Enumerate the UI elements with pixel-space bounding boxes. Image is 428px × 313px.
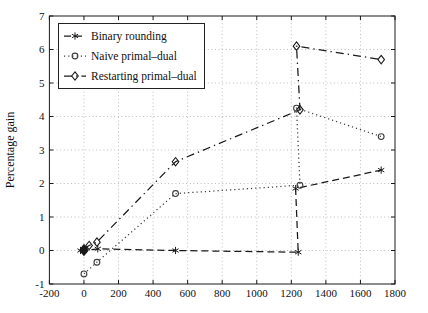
- legend-marker-sample: [63, 29, 87, 43]
- legend-item-naive-primal-dual: Naive primal–dual: [63, 46, 197, 66]
- y-tick-label: 4: [39, 110, 45, 122]
- y-tick-label: 0: [39, 244, 45, 256]
- x-tick-label: 1200: [280, 287, 303, 299]
- legend-item-restarting-primal-dual: Restarting primal–dual: [63, 66, 197, 86]
- x-tick-label: 200: [110, 287, 127, 299]
- legend-marker-sample: [63, 69, 87, 83]
- series-binary-rounding: [77, 167, 384, 256]
- legend-marker-sample: [63, 49, 87, 63]
- series-naive-primal-dual: [81, 105, 384, 277]
- y-tick-label: 5: [39, 77, 45, 89]
- x-tick-label: 1400: [315, 287, 338, 299]
- data-point-marker: [173, 191, 179, 197]
- y-tick-label: 3: [39, 144, 45, 156]
- x-tick-label: 1600: [349, 287, 372, 299]
- legend-label: Restarting primal–dual: [91, 70, 197, 82]
- y-tick-label: 7: [39, 10, 45, 22]
- data-point-marker: [378, 55, 385, 63]
- x-tick-label: 1800: [384, 287, 407, 299]
- y-tick-label: -1: [35, 278, 44, 290]
- legend-label: Naive primal–dual: [91, 50, 177, 62]
- x-tick-label: 800: [214, 287, 231, 299]
- y-axis-label: Percentage gain: [3, 112, 17, 188]
- figure: -200020040060080010001200140016001800-10…: [0, 0, 428, 313]
- data-point-marker: [378, 134, 384, 140]
- y-tick-label: 6: [39, 43, 45, 55]
- series-line: [81, 170, 382, 252]
- y-tick-label: 2: [39, 177, 45, 189]
- x-tick-label: 0: [81, 287, 87, 299]
- legend-label: Binary rounding: [91, 30, 167, 42]
- legend-item-binary-rounding: Binary rounding: [63, 26, 197, 46]
- x-tick-label: 400: [145, 287, 162, 299]
- y-tick-label: 1: [39, 211, 45, 223]
- legend: Binary roundingNaive primal–dualRestarti…: [58, 23, 205, 89]
- x-tick-label: 1000: [246, 287, 269, 299]
- x-tick-label: 600: [179, 287, 196, 299]
